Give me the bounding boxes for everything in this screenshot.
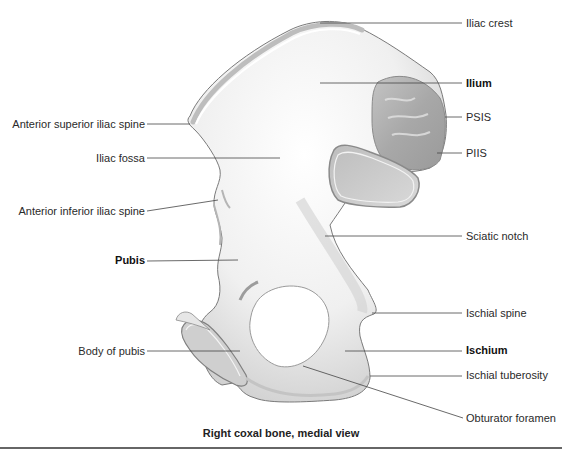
label-sciatic-notch: Sciatic notch: [466, 230, 528, 243]
label-ilium: Ilium: [466, 77, 492, 90]
label-anterior-superior-iliac-spine: Anterior superior iliac spine: [12, 118, 145, 131]
label-iliac-crest: Iliac crest: [466, 17, 512, 30]
label-piis: PIIS: [466, 147, 487, 160]
figure-caption: Right coxal bone, medial view: [0, 427, 562, 439]
label-ischial-spine: Ischial spine: [466, 307, 527, 320]
label-obturator-foramen: Obturator foramen: [466, 412, 556, 425]
label-ischial-tuberosity: Ischial tuberosity: [466, 369, 548, 382]
label-ischium: Ischium: [466, 344, 508, 357]
label-pubis: Pubis: [115, 254, 145, 267]
label-body-of-pubis: Body of pubis: [78, 345, 145, 358]
label-psis: PSIS: [466, 111, 491, 124]
label-anterior-inferior-iliac-spine: Anterior inferior iliac spine: [18, 205, 145, 218]
label-iliac-fossa: Iliac fossa: [96, 152, 145, 165]
coxal-bone-illustration: [0, 0, 562, 455]
bottom-rule: [0, 447, 562, 449]
